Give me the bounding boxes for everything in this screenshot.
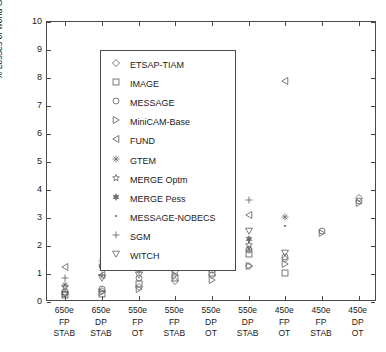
x-tick-mark <box>359 22 360 26</box>
legend-marker-triangle-right-icon <box>108 115 130 129</box>
y-tick-mark <box>371 274 375 275</box>
y-tick-label: 4 <box>12 184 42 194</box>
y-tick-label: 5 <box>12 156 42 166</box>
y-tick-mark <box>47 162 51 163</box>
x-tick-mark <box>212 22 213 26</box>
data-point-triangle-right <box>205 273 219 287</box>
legend-label: MESSAGE-NOBECS <box>130 213 216 223</box>
y-tick-mark <box>371 190 375 191</box>
y-tick-mark <box>47 190 51 191</box>
legend-item: WITCH <box>101 247 235 266</box>
x-tick-mark <box>359 296 360 300</box>
legend-marker-plus-icon <box>108 230 130 244</box>
x-tick-mark <box>285 296 286 300</box>
legend-item: MERGE Pess <box>101 189 235 208</box>
data-point-plus <box>58 271 72 285</box>
x-tick-mark <box>65 22 66 26</box>
x-tick-mark <box>102 22 103 26</box>
y-tick-mark <box>47 134 51 135</box>
legend-marker-asterisk-icon <box>108 154 130 168</box>
data-point-triangle-left <box>242 208 256 222</box>
legend-label: MERGE Optm <box>130 175 188 185</box>
y-tick-label: 7 <box>12 100 42 110</box>
legend-label: WITCH <box>130 251 160 261</box>
x-tick-line3: OT <box>330 328 386 340</box>
plot-area: ETSAP-TIAMIMAGEMESSAGEMiniCAM-BaseFUNDGT… <box>46 21 376 301</box>
x-tick-mark <box>139 296 140 300</box>
legend-item: ETSAP-TIAM <box>101 55 235 74</box>
legend-label: GTEM <box>130 156 156 166</box>
x-tick-label: 450eDPOT <box>330 305 386 340</box>
legend-label: IMAGE <box>130 79 159 89</box>
legend-box: ETSAP-TIAMIMAGEMESSAGEMiniCAM-BaseFUNDGT… <box>100 50 236 271</box>
x-tick-mark <box>102 296 103 300</box>
legend-item: IMAGE <box>101 74 235 93</box>
y-tick-label: 9 <box>12 44 42 54</box>
y-tick-mark <box>371 218 375 219</box>
x-tick-mark <box>175 22 176 26</box>
legend-marker-triangle-down-icon <box>108 249 130 263</box>
data-point-triangle-left <box>278 74 292 88</box>
y-tick-mark <box>47 106 51 107</box>
y-tick-mark <box>47 274 51 275</box>
legend-marker-circle-icon <box>108 96 130 110</box>
data-point-triangle-down <box>242 224 256 238</box>
y-axis-label: % Losses of world GDP, in NPV <box>0 0 4 118</box>
data-point-triangle-right <box>352 196 366 210</box>
legend-label: SGM <box>130 232 151 242</box>
y-tick-mark <box>371 246 375 247</box>
legend-item: FUND <box>101 132 235 151</box>
data-point-triangle-down <box>278 246 292 260</box>
x-tick-mark <box>322 22 323 26</box>
legend-marker-star-open-icon <box>108 173 130 187</box>
y-tick-mark <box>371 50 375 51</box>
legend-item: MESSAGE <box>101 93 235 112</box>
legend-item: SGM <box>101 228 235 247</box>
x-tick-mark <box>322 296 323 300</box>
y-tick-label: 10 <box>12 16 42 26</box>
y-tick-mark <box>47 218 51 219</box>
legend-marker-square-icon <box>108 77 130 91</box>
y-tick-mark <box>47 50 51 51</box>
legend-marker-star-six-icon <box>108 192 130 206</box>
y-tick-label: 8 <box>12 72 42 82</box>
y-tick-label: 2 <box>12 240 42 250</box>
legend-marker-dot-icon <box>108 211 130 225</box>
legend-label: MiniCAM-Base <box>130 117 190 127</box>
y-tick-label: 3 <box>12 212 42 222</box>
legend-label: MERGE Pess <box>130 194 186 204</box>
y-tick-mark <box>371 162 375 163</box>
y-tick-mark <box>371 134 375 135</box>
x-tick-line2: DP <box>330 317 386 329</box>
data-point-dot <box>278 219 292 233</box>
y-tick-label: 6 <box>12 128 42 138</box>
data-point-triangle-right <box>132 282 146 296</box>
legend-label: ETSAP-TIAM <box>130 60 184 70</box>
x-tick-line1: 450e <box>330 305 386 317</box>
y-tick-mark <box>371 78 375 79</box>
legend-item: GTEM <box>101 151 235 170</box>
x-tick-mark <box>249 22 250 26</box>
x-tick-mark <box>175 296 176 300</box>
data-point-triangle-right <box>242 259 256 273</box>
y-tick-mark <box>47 78 51 79</box>
chart-root: % Losses of world GDP, in NPV 0123456789… <box>0 0 386 352</box>
x-tick-mark <box>139 22 140 26</box>
legend-item: MESSAGE-NOBECS <box>101 209 235 228</box>
legend-label: MESSAGE <box>130 98 175 108</box>
x-tick-mark <box>249 296 250 300</box>
y-tick-mark <box>47 246 51 247</box>
legend-label: FUND <box>130 136 155 146</box>
data-point-plus <box>242 193 256 207</box>
y-tick-mark <box>47 22 51 23</box>
legend-marker-diamond-icon <box>108 58 130 72</box>
y-tick-label: 1 <box>12 268 42 278</box>
legend-item: MiniCAM-Base <box>101 113 235 132</box>
x-tick-mark <box>65 296 66 300</box>
y-tick-mark <box>47 302 51 303</box>
x-tick-mark <box>285 22 286 26</box>
legend-item: MERGE Optm <box>101 170 235 189</box>
data-point-triangle-down <box>95 271 109 285</box>
y-tick-mark <box>371 302 375 303</box>
legend-marker-triangle-left-icon <box>108 134 130 148</box>
